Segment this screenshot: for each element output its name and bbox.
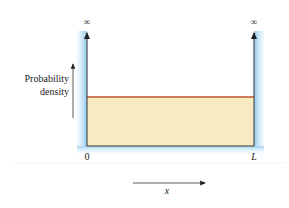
right-infinity-label: ∞: [251, 17, 257, 27]
right-edge-label: L: [250, 151, 257, 162]
left-edge-label: 0: [85, 151, 90, 162]
bottom-glow: [77, 146, 264, 154]
y-axis-label-line1: Probability: [25, 73, 69, 84]
left-wall-glow: [77, 31, 87, 148]
probability-fill: [87, 97, 254, 146]
left-infinity-label: ∞: [84, 17, 90, 27]
x-axis-label: x: [164, 185, 170, 196]
right-wall-glow: [254, 31, 264, 148]
y-axis-label-line2: density: [40, 86, 69, 97]
probability-density-diagram: ∞ ∞ Probability density 0 L x: [0, 0, 289, 208]
